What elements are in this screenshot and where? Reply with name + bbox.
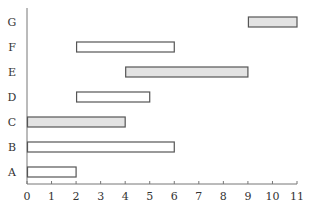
y-category-label: A (7, 166, 17, 179)
y-axis-labels: ABCDEFG (7, 16, 17, 179)
x-tick-label: 5 (146, 190, 153, 203)
y-category-label: F (8, 41, 16, 54)
x-tick-label: 4 (122, 190, 129, 203)
x-tick-label: 11 (290, 190, 304, 203)
bar-g (248, 17, 297, 27)
x-axis (27, 181, 297, 184)
x-tick-label: 6 (171, 190, 178, 203)
x-tick-label: 1 (48, 190, 55, 203)
y-category-label: E (8, 66, 16, 79)
x-tick-label: 0 (24, 190, 31, 203)
bars (28, 17, 298, 177)
y-category-label: C (8, 116, 16, 129)
x-tick-label: 9 (244, 190, 251, 203)
y-category-label: D (8, 91, 17, 104)
y-category-label: G (8, 16, 17, 29)
bar-d (77, 92, 150, 102)
bar-e (126, 67, 248, 77)
y-category-label: B (8, 141, 16, 154)
x-tick-label: 2 (73, 190, 80, 203)
bar-b (28, 142, 175, 152)
x-tick-label: 10 (265, 190, 279, 203)
x-tick-label: 7 (195, 190, 202, 203)
bar-a (28, 167, 77, 177)
x-axis-labels: 01234567891011 (24, 190, 305, 203)
gantt-chart: ABCDEFG 01234567891011 (0, 0, 313, 214)
x-tick-label: 8 (220, 190, 227, 203)
x-tick-label: 3 (97, 190, 104, 203)
bar-c (28, 117, 126, 127)
bar-f (77, 42, 175, 52)
